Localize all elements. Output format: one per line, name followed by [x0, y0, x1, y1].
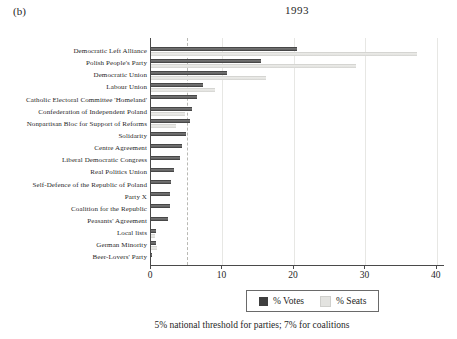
- category-label: Solidarity: [0, 132, 147, 140]
- votes-bar: [151, 71, 227, 75]
- category-label: Democratic Union: [0, 71, 147, 79]
- chart-row: Self-Defence of the Republic of Poland: [0, 179, 457, 191]
- category-label: Polish People's Party: [0, 59, 147, 67]
- axis-tick-label: 40: [431, 270, 441, 280]
- votes-bar: [151, 95, 197, 99]
- votes-bar: [151, 119, 190, 123]
- chart-row: Liberal Democratic Congress: [0, 154, 457, 166]
- bar-group: [151, 168, 444, 177]
- chart-row: Centre Agreement: [0, 142, 457, 154]
- bar-group: [151, 229, 444, 238]
- bar-group: [151, 95, 444, 104]
- bar-group: [151, 83, 444, 92]
- legend-votes-label: % Votes: [273, 296, 304, 306]
- bar-group: [151, 119, 444, 128]
- votes-bar: [151, 59, 261, 63]
- axis-tick: [150, 265, 151, 269]
- chart-row: Local lists: [0, 227, 457, 239]
- category-label: Centre Agreement: [0, 144, 147, 152]
- axis-tick-label: 20: [288, 270, 298, 280]
- category-label: Labour Union: [0, 83, 147, 91]
- chart-row: Party X: [0, 191, 457, 203]
- category-label: Democratic Left Alliance: [0, 47, 147, 55]
- legend-seats-label: % Seats: [336, 296, 366, 306]
- bar-group: [151, 192, 444, 201]
- category-label: Real Politics Union: [0, 168, 147, 176]
- category-label: Beer-Lovers' Party: [0, 253, 147, 261]
- panel-label: (b): [13, 5, 26, 17]
- votes-bar: [151, 132, 186, 136]
- category-label: Nonpartisan Bloc for Support of Reforms: [0, 120, 147, 128]
- bar-group: [151, 47, 444, 56]
- category-label: Confederation of Independent Poland: [0, 108, 147, 116]
- category-label: Local lists: [0, 229, 147, 237]
- bar-chart: Democratic Left AlliancePolish People's …: [0, 38, 457, 265]
- chart-row: Democratic Union: [0, 69, 457, 81]
- votes-bar: [151, 144, 182, 148]
- chart-row: Confederation of Independent Poland: [0, 106, 457, 118]
- chart-row: Peasants' Agreement: [0, 215, 457, 227]
- seats-bar: [151, 64, 356, 68]
- axis-tick: [221, 265, 222, 269]
- chart-row: Democratic Left Alliance: [0, 45, 457, 57]
- seats-bar: [151, 112, 185, 116]
- chart-row: Labour Union: [0, 81, 457, 93]
- bar-group: [151, 59, 444, 68]
- bar-group: [151, 241, 444, 250]
- bar-group: [151, 71, 444, 80]
- seats-bar: [151, 124, 176, 128]
- votes-bar: [151, 107, 192, 111]
- chart-row: Real Politics Union: [0, 166, 457, 178]
- category-label: German Minority: [0, 241, 147, 249]
- category-label: Self-Defence of the Republic of Poland: [0, 181, 147, 189]
- bar-group: [151, 180, 444, 189]
- chart-row: Nonpartisan Bloc for Support of Reforms: [0, 118, 457, 130]
- chart-row: Polish People's Party: [0, 57, 457, 69]
- bar-group: [151, 204, 444, 213]
- votes-swatch-icon: [259, 297, 268, 306]
- axis-tick: [436, 265, 437, 269]
- votes-bar: [151, 253, 152, 257]
- category-label: Coalition for the Republic: [0, 205, 147, 213]
- seats-swatch-icon: [320, 296, 331, 307]
- chart-row: Coalition for the Republic: [0, 203, 457, 215]
- votes-bar: [151, 180, 171, 184]
- chart-row: Solidarity: [0, 130, 457, 142]
- votes-bar: [151, 229, 156, 233]
- bar-group: [151, 217, 444, 226]
- votes-bar: [151, 204, 170, 208]
- category-label: Catholic Electoral Committee 'Homeland': [0, 96, 147, 104]
- bar-group: [151, 132, 444, 141]
- votes-bar: [151, 156, 180, 160]
- axis-tick-label: 30: [360, 270, 370, 280]
- seats-bar: [151, 76, 266, 80]
- axis-tick-label: 0: [148, 270, 153, 280]
- x-axis: 010203040: [0, 265, 457, 285]
- votes-bar: [151, 168, 174, 172]
- legend-item-seats: % Seats: [320, 296, 366, 307]
- votes-bar: [151, 241, 156, 245]
- bar-group: [151, 107, 444, 116]
- chart-row: German Minority: [0, 239, 457, 251]
- seats-bar: [151, 52, 417, 56]
- bar-rows: Democratic Left AlliancePolish People's …: [0, 38, 457, 264]
- votes-bar: [151, 192, 170, 196]
- chart-row: Catholic Electoral Committee 'Homeland': [0, 94, 457, 106]
- bar-group: [151, 253, 444, 262]
- legend-item-votes: % Votes: [259, 296, 304, 306]
- category-label: Peasants' Agreement: [0, 217, 147, 225]
- seats-bar: [151, 246, 157, 250]
- axis-tick-label: 10: [217, 270, 227, 280]
- axis-tick: [293, 265, 294, 269]
- axis-tick: [364, 265, 365, 269]
- votes-bar: [151, 83, 203, 87]
- bar-group: [151, 144, 444, 153]
- bar-group: [151, 156, 444, 165]
- seats-bar: [151, 88, 215, 92]
- category-label: Party X: [0, 193, 147, 201]
- votes-bar: [151, 47, 297, 51]
- legend: % Votes % Seats: [246, 290, 379, 312]
- seats-bar: [151, 234, 155, 238]
- category-label: Liberal Democratic Congress: [0, 156, 147, 164]
- chart-row: Beer-Lovers' Party: [0, 251, 457, 263]
